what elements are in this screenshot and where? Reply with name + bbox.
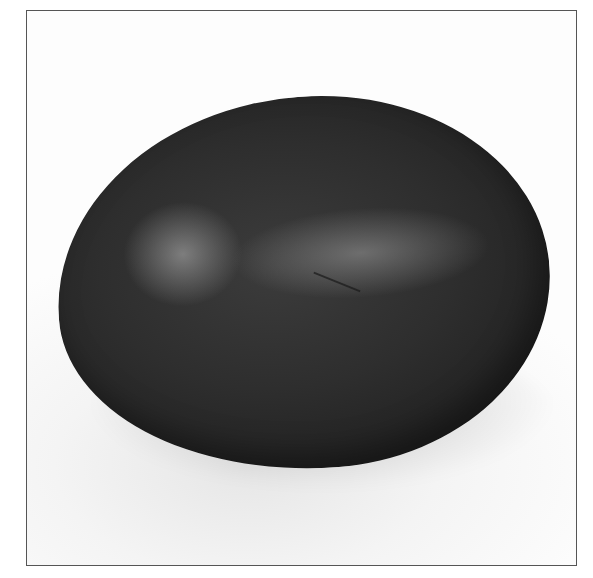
photo-frame: Grayscale photograph of a single dark-sh… — [26, 10, 577, 566]
